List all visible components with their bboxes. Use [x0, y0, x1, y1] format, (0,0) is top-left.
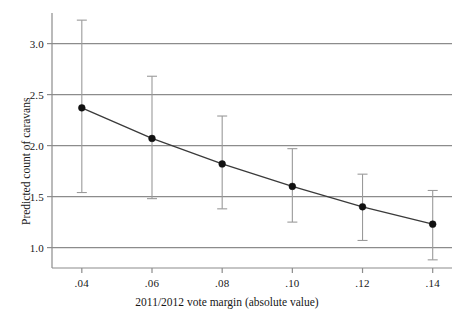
data-point-.04 — [78, 104, 85, 111]
y-axis-title: Predicted count of caravans — [20, 98, 32, 225]
x-tick-label-.14: .14 — [426, 277, 440, 289]
gridlines — [52, 44, 452, 248]
x-tick-label-.04: .04 — [75, 277, 89, 289]
chart-figure: 1.01.52.02.53.0 .04.06.08.10.12.14 2011/… — [0, 0, 454, 323]
data-point-markers — [78, 104, 436, 227]
y-tick-label-1.0: 1.0 — [4, 242, 44, 254]
series-line — [82, 108, 433, 224]
axis-lines — [52, 13, 452, 268]
x-axis-title: 2011/2012 vote margin (absolute value) — [0, 296, 454, 308]
x-tick-label-.06: .06 — [145, 277, 159, 289]
x-tick-label-.08: .08 — [215, 277, 229, 289]
y-axis-ticks — [47, 44, 52, 248]
x-tick-label-.10: .10 — [285, 277, 299, 289]
prediction-line — [82, 108, 433, 224]
plot-canvas — [0, 0, 454, 323]
data-point-.06 — [149, 135, 156, 142]
data-point-.14 — [429, 221, 436, 228]
y-tick-label-3.0: 3.0 — [4, 38, 44, 50]
data-point-.12 — [359, 203, 366, 210]
x-axis-ticks — [82, 268, 433, 273]
data-point-.08 — [219, 161, 226, 168]
x-tick-label-.12: .12 — [355, 277, 369, 289]
data-point-.10 — [289, 183, 296, 190]
error-bars — [77, 20, 438, 260]
